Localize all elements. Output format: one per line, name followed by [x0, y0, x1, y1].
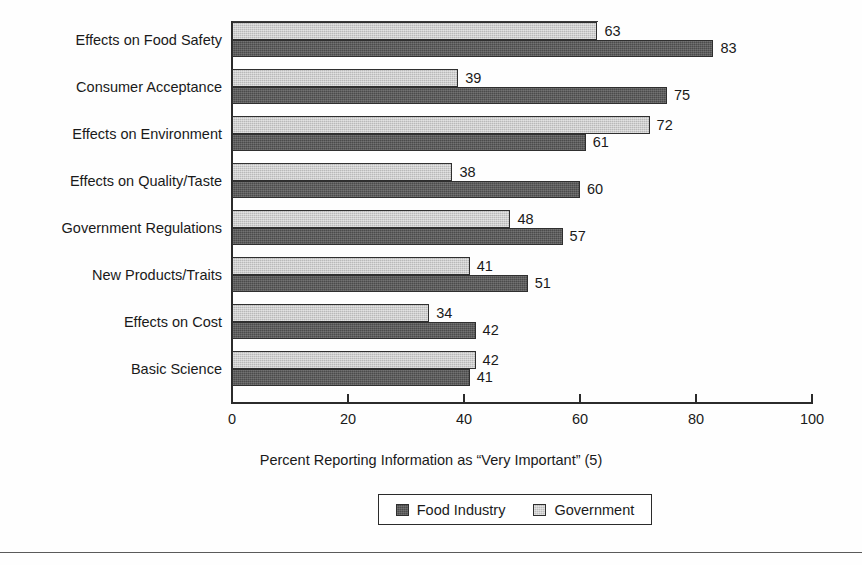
bar-value-label-food-industry: 60 [587, 181, 603, 197]
x-axis-line [231, 402, 813, 404]
bar-value-label-food-industry: 83 [720, 40, 736, 56]
bar-food-industry [232, 369, 470, 387]
dark-gray-swatch-icon [396, 504, 409, 516]
x-axis-tick [579, 394, 580, 403]
bar-food-industry [232, 275, 528, 293]
category-label: Government Regulations [62, 220, 222, 236]
bar-value-label-government: 39 [465, 70, 481, 86]
bar-government [232, 257, 470, 275]
light-gray-swatch-icon [533, 504, 546, 516]
legend-entry-food-industry: Food Industry [396, 502, 506, 518]
bar-value-label-government: 42 [483, 352, 499, 368]
x-axis-tick [231, 394, 232, 403]
bar-value-label-food-industry: 61 [593, 134, 609, 150]
bar-government [232, 163, 452, 181]
bar-food-industry [232, 87, 667, 105]
bar-value-label-government: 38 [459, 164, 475, 180]
category-label: Effects on Quality/Taste [70, 173, 222, 189]
bar-value-label-food-industry: 75 [674, 87, 690, 103]
category-label: New Products/Traits [92, 267, 222, 283]
x-axis-title: Percent Reporting Information as “Very I… [0, 452, 862, 468]
bar-food-industry [232, 181, 580, 199]
chart-legend: Food Industry Government [378, 494, 652, 525]
bar-value-label-food-industry: 42 [483, 322, 499, 338]
bar-food-industry [232, 228, 563, 246]
x-axis-tick [463, 394, 464, 403]
bar-government [232, 351, 476, 369]
bar-value-label-food-industry: 41 [477, 369, 493, 385]
x-axis-tick-label: 60 [572, 411, 588, 427]
chart-figure: 020406080100Effects on Food Safety6383Co… [0, 0, 862, 565]
bar-government [232, 116, 650, 134]
bar-value-label-government: 63 [604, 23, 620, 39]
x-axis-tick [695, 394, 696, 403]
x-axis-tick [347, 394, 348, 403]
bar-food-industry [232, 40, 713, 58]
bar-food-industry [232, 134, 586, 152]
category-label: Effects on Food Safety [76, 32, 222, 48]
bar-value-label-government: 72 [657, 117, 673, 133]
x-axis-tick-label: 40 [456, 411, 472, 427]
legend-entry-government: Government [533, 502, 634, 518]
category-label: Consumer Acceptance [76, 79, 222, 95]
bar-value-label-government: 48 [517, 211, 533, 227]
category-label: Effects on Environment [72, 126, 222, 142]
bar-food-industry [232, 322, 476, 340]
bar-government [232, 304, 429, 322]
x-axis-tick-label: 0 [228, 411, 236, 427]
bar-value-label-government: 41 [477, 258, 493, 274]
footer-divider [0, 552, 862, 553]
category-label: Effects on Cost [124, 314, 222, 330]
legend-label-government: Government [554, 502, 634, 518]
bar-value-label-food-industry: 57 [570, 228, 586, 244]
bar-government [232, 69, 458, 87]
bar-value-label-government: 34 [436, 305, 452, 321]
x-axis-tick-label: 20 [340, 411, 356, 427]
bar-value-label-food-industry: 51 [535, 275, 551, 291]
legend-label-food-industry: Food Industry [417, 502, 506, 518]
bar-government [232, 210, 510, 228]
x-axis-tick [811, 394, 812, 403]
category-label: Basic Science [131, 361, 222, 377]
x-axis-tick-label: 100 [800, 411, 824, 427]
bar-government [232, 22, 597, 40]
x-axis-tick-label: 80 [688, 411, 704, 427]
